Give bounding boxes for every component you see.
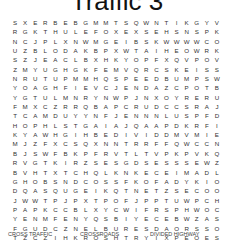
grid-letter[interactable]: Y — [101, 205, 111, 214]
grid-letter[interactable]: Y — [81, 214, 91, 223]
grid-letter[interactable]: S — [182, 102, 192, 111]
grid-letter[interactable]: R — [20, 74, 30, 83]
grid-letter[interactable]: D — [172, 177, 182, 186]
grid-letter[interactable]: R — [71, 102, 81, 111]
grid-letter[interactable]: S — [202, 65, 212, 74]
grid-letter[interactable]: C — [50, 205, 60, 214]
grid-letter[interactable]: W — [182, 37, 192, 46]
grid-letter[interactable]: E — [141, 186, 151, 195]
grid-letter[interactable]: K — [182, 121, 192, 130]
grid-letter[interactable]: P — [141, 196, 151, 205]
grid-letter[interactable]: W — [172, 37, 182, 46]
grid-letter[interactable]: X — [20, 18, 30, 27]
grid-letter[interactable]: R — [141, 139, 151, 148]
grid-letter[interactable]: X — [91, 139, 101, 148]
grid-letter[interactable]: C — [60, 205, 70, 214]
grid-letter[interactable]: B — [172, 214, 182, 223]
grid-letter[interactable]: B — [50, 18, 60, 27]
grid-letter[interactable]: B — [111, 214, 121, 223]
grid-letter[interactable]: H — [50, 130, 60, 139]
grid-letter[interactable]: S — [161, 158, 171, 167]
grid-letter[interactable]: F — [40, 139, 50, 148]
grid-letter[interactable]: O — [212, 37, 222, 46]
grid-letter[interactable]: S — [10, 18, 20, 27]
grid-letter[interactable]: S — [101, 214, 111, 223]
grid-letter[interactable]: T — [30, 93, 40, 102]
grid-letter[interactable]: S — [212, 65, 222, 74]
grid-letter[interactable]: H — [50, 27, 60, 36]
grid-letter[interactable]: M — [182, 168, 192, 177]
grid-letter[interactable]: Q — [131, 18, 141, 27]
grid-letter[interactable]: W — [182, 214, 192, 223]
grid-letter[interactable]: D — [202, 168, 212, 177]
grid-letter[interactable]: I — [151, 46, 161, 55]
grid-letter[interactable]: B — [10, 149, 20, 158]
grid-letter[interactable]: Q — [81, 102, 91, 111]
grid-letter[interactable]: S — [192, 27, 202, 36]
grid-letter[interactable]: Q — [20, 186, 30, 195]
grid-letter[interactable]: L — [71, 55, 81, 64]
grid-letter[interactable]: Q — [131, 65, 141, 74]
grid-letter[interactable]: S — [141, 27, 151, 36]
grid-letter[interactable]: F — [91, 149, 101, 158]
grid-letter[interactable]: F — [121, 177, 131, 186]
grid-letter[interactable]: D — [71, 177, 81, 186]
grid-letter[interactable]: B — [71, 18, 81, 27]
grid-letter[interactable]: S — [161, 205, 171, 214]
grid-letter[interactable]: P — [101, 46, 111, 55]
grid-letter[interactable]: G — [60, 130, 70, 139]
grid-letter[interactable]: P — [111, 102, 121, 111]
grid-letter[interactable]: V — [20, 168, 30, 177]
grid-letter[interactable]: H — [60, 233, 70, 242]
grid-letter[interactable]: E — [151, 27, 161, 36]
grid-letter[interactable]: K — [30, 27, 40, 36]
grid-letter[interactable]: B — [161, 74, 171, 83]
grid-letter[interactable]: W — [30, 196, 40, 205]
grid-letter[interactable]: H — [30, 168, 40, 177]
grid-letter[interactable]: C — [20, 111, 30, 120]
grid-letter[interactable]: M — [91, 37, 101, 46]
grid-letter[interactable]: W — [192, 37, 202, 46]
grid-letter[interactable]: Z — [81, 158, 91, 167]
grid-letter[interactable]: K — [182, 18, 192, 27]
grid-letter[interactable]: J — [121, 121, 131, 130]
grid-letter[interactable]: O — [202, 205, 212, 214]
grid-letter[interactable]: Q — [101, 74, 111, 83]
grid-letter[interactable]: S — [121, 18, 131, 27]
grid-letter[interactable]: P — [40, 37, 50, 46]
grid-letter[interactable]: C — [151, 214, 161, 223]
grid-letter[interactable]: U — [50, 74, 60, 83]
grid-letter[interactable]: W — [212, 74, 222, 83]
grid-letter[interactable]: Q — [172, 139, 182, 148]
grid-letter[interactable]: K — [192, 177, 202, 186]
grid-letter[interactable]: K — [71, 149, 81, 158]
grid-letter[interactable]: P — [151, 196, 161, 205]
grid-letter[interactable]: M — [20, 65, 30, 74]
grid-letter[interactable]: A — [30, 83, 40, 92]
grid-letter[interactable]: O — [192, 83, 202, 92]
grid-letter[interactable]: A — [20, 205, 30, 214]
grid-letter[interactable]: X — [60, 37, 70, 46]
grid-letter[interactable]: U — [60, 186, 70, 195]
grid-letter[interactable]: Y — [10, 83, 20, 92]
grid-letter[interactable]: Z — [10, 65, 20, 74]
grid-letter[interactable]: T — [121, 233, 131, 242]
grid-letter[interactable]: E — [81, 83, 91, 92]
grid-letter[interactable]: C — [40, 102, 50, 111]
grid-letter[interactable]: Q — [91, 214, 101, 223]
grid-letter[interactable]: Y — [202, 18, 212, 27]
grid-letter[interactable]: T — [10, 111, 20, 120]
grid-letter[interactable]: V — [111, 149, 121, 158]
grid-letter[interactable]: G — [20, 93, 30, 102]
grid-letter[interactable]: Q — [172, 55, 182, 64]
grid-letter[interactable]: V — [131, 130, 141, 139]
grid-letter[interactable]: S — [30, 149, 40, 158]
grid-letter[interactable]: A — [192, 168, 202, 177]
grid-letter[interactable]: Y — [182, 177, 192, 186]
grid-letter[interactable]: B — [40, 177, 50, 186]
grid-letter[interactable]: U — [172, 111, 182, 120]
grid-letter[interactable]: N — [131, 83, 141, 92]
grid-letter[interactable]: W — [40, 130, 50, 139]
grid-letter[interactable]: I — [172, 168, 182, 177]
grid-letter[interactable]: P — [60, 74, 70, 83]
